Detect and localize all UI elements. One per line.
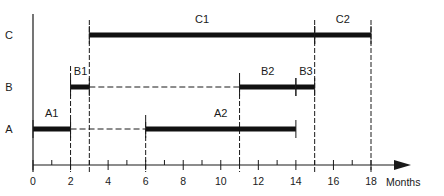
- row-label-C: C: [5, 29, 13, 41]
- x-tick-label: 0: [30, 175, 36, 187]
- gantt-chart: 024681012141618MonthsABCA1A2B1B2B3C1C2: [0, 0, 444, 196]
- x-tick-label: 8: [180, 175, 186, 187]
- task-bar-B1: [71, 85, 90, 90]
- task-label-C2: C2: [336, 13, 350, 25]
- task-bar-C1: [89, 33, 314, 38]
- x-tick-label: 4: [105, 175, 111, 187]
- row-label-A: A: [5, 123, 13, 135]
- task-label-A1: A1: [45, 107, 58, 119]
- task-bar-B2: [240, 85, 296, 90]
- task-bar-A1: [33, 127, 71, 132]
- row-label-B: B: [5, 81, 12, 93]
- task-bar-C2: [315, 33, 371, 38]
- x-tick-label: 2: [68, 175, 74, 187]
- x-axis-arrow-icon: [394, 160, 411, 170]
- task-bar-B3: [296, 85, 315, 90]
- x-tick-label: 16: [328, 175, 340, 187]
- task-label-B1: B1: [74, 65, 87, 77]
- task-label-A2: A2: [214, 107, 227, 119]
- x-tick-label: 14: [290, 175, 302, 187]
- task-label-B3: B3: [299, 65, 312, 77]
- x-tick-label: 10: [215, 175, 227, 187]
- x-axis-label: Months: [386, 176, 420, 188]
- x-tick-label: 6: [143, 175, 149, 187]
- task-label-B2: B2: [261, 65, 274, 77]
- task-bar-A2: [146, 127, 296, 132]
- x-tick-label: 12: [252, 175, 264, 187]
- task-label-C1: C1: [195, 13, 209, 25]
- x-tick-label: 18: [365, 175, 377, 187]
